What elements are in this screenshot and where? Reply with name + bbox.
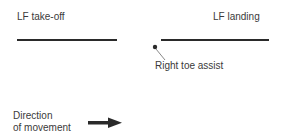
right-toe-assist-label: Right toe assist [155, 60, 223, 71]
toe-assist-dot-icon [153, 45, 157, 49]
direction-label-line2: of movement [13, 122, 71, 133]
direction-arrow-icon [88, 118, 122, 129]
toe-assist-leader-line [156, 49, 165, 60]
direction-label-line1: Direction [13, 110, 52, 121]
